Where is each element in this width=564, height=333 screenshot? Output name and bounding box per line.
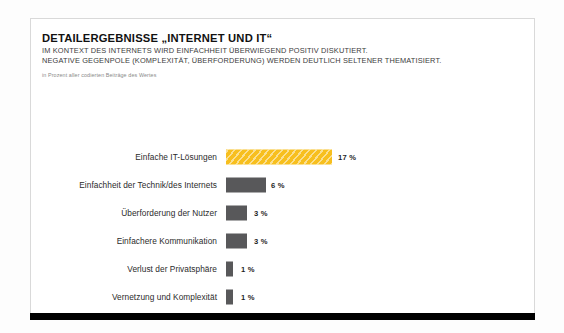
chart-header: DETAILERGEBNISSE „INTERNET UND IT“ IM KO… xyxy=(42,32,524,78)
bar-track: 6 % xyxy=(226,178,534,193)
bar-row: Verlust der Privatsphäre 1 % xyxy=(31,255,534,283)
chart-subtitle-line-2: NEGATIVE GEGENPOLE (KOMPLEXITÄT, ÜBERFOR… xyxy=(42,56,524,66)
bar-track: 1 % xyxy=(226,290,534,305)
bar-fill xyxy=(226,150,332,165)
chart-plot-area: Einfache IT-Lösungen 17 % Einfachheit de… xyxy=(31,143,534,311)
chart-card: DETAILERGEBNISSE „INTERNET UND IT“ IM KO… xyxy=(30,18,535,320)
bar-value-label: 6 % xyxy=(271,181,285,190)
bar-track: 17 % xyxy=(226,150,534,165)
bar-value-label: 3 % xyxy=(254,209,268,218)
bar-category-label: Verlust der Privatsphäre xyxy=(31,264,217,274)
chart-caption: in Prozent aller codierten Beiträge des … xyxy=(42,72,524,78)
bar-row: Einfache IT-Lösungen 17 % xyxy=(31,143,534,171)
bar-value-label: 1 % xyxy=(241,293,255,302)
bar-value-label: 3 % xyxy=(254,237,268,246)
bottom-rule xyxy=(30,313,535,320)
slide-root: DETAILERGEBNISSE „INTERNET UND IT“ IM KO… xyxy=(0,0,564,333)
bar-fill xyxy=(226,262,233,277)
page-title: DETAILERGEBNISSE „INTERNET UND IT“ xyxy=(42,32,524,45)
bar-category-label: Überforderung der Nutzer xyxy=(31,208,217,218)
bar-category-label: Einfachere Kommunikation xyxy=(31,236,217,246)
bar-row: Einfachheit der Technik/des Internets 6 … xyxy=(31,171,534,199)
bar-value-label: 1 % xyxy=(241,265,255,274)
bar-category-label: Einfachheit der Technik/des Internets xyxy=(31,180,217,190)
bar-track: 3 % xyxy=(226,234,534,249)
bar-value-label: 17 % xyxy=(338,153,356,162)
bar-category-label: Einfache IT-Lösungen xyxy=(31,152,217,162)
chart-subtitle-line-1: IM KONTEXT DES INTERNETS WIRD EINFACHHEI… xyxy=(42,46,524,56)
bar-fill xyxy=(226,290,233,305)
bar-fill xyxy=(226,234,247,249)
bar-row: Einfachere Kommunikation 3 % xyxy=(31,227,534,255)
bar-row: Vernetzung und Komplexität 1 % xyxy=(31,283,534,311)
bar-row: Überforderung der Nutzer 3 % xyxy=(31,199,534,227)
bar-category-label: Vernetzung und Komplexität xyxy=(31,292,217,302)
bar-track: 1 % xyxy=(226,262,534,277)
bar-fill xyxy=(226,206,247,221)
bar-track: 3 % xyxy=(226,206,534,221)
bar-fill xyxy=(226,178,266,193)
chart-subtitle: IM KONTEXT DES INTERNETS WIRD EINFACHHEI… xyxy=(42,46,524,65)
